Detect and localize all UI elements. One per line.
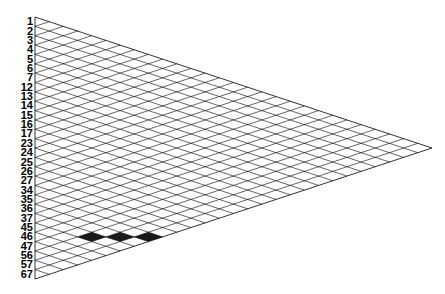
row-labels: 1234567121314151617232425262734353637454… — [0, 0, 445, 294]
row-label: 67 — [21, 270, 33, 279]
